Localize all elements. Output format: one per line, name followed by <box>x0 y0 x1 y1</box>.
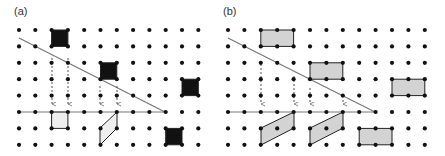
lattice-dot <box>196 44 200 48</box>
lattice-dot <box>98 77 102 81</box>
lattice-dot <box>324 44 328 48</box>
lattice-dot <box>308 77 312 81</box>
lattice-dot <box>292 110 296 114</box>
lattice-dot <box>50 61 54 65</box>
lattice-dot <box>50 28 54 32</box>
lattice-dot <box>180 61 184 65</box>
lattice-dot <box>147 28 151 32</box>
lattice-dot <box>147 94 151 98</box>
lattice-dot <box>33 28 37 32</box>
lattice-dot <box>423 61 427 65</box>
shaded-cell <box>392 79 425 95</box>
lattice-dot <box>115 77 119 81</box>
lattice-dot <box>406 110 410 114</box>
lattice-dot <box>374 44 378 48</box>
lattice-dot <box>115 28 119 32</box>
lattice-dot <box>131 28 135 32</box>
lattice-dot <box>66 77 70 81</box>
lattice-dot <box>164 94 168 98</box>
lattice-dot <box>341 94 345 98</box>
lattice-dot <box>341 77 345 81</box>
lattice-dot <box>406 143 410 147</box>
lattice-dot <box>115 110 119 114</box>
lattice-dot <box>50 143 54 147</box>
lattice-dot <box>324 94 328 98</box>
lattice-dot <box>180 126 184 130</box>
lattice-dot <box>98 110 102 114</box>
lattice-dot <box>82 110 86 114</box>
lattice-dot <box>324 110 328 114</box>
panel-a <box>17 28 201 147</box>
lattice-dot <box>164 28 168 32</box>
lattice-dot <box>242 77 246 81</box>
lattice-dot <box>33 94 37 98</box>
lattice-dot <box>50 77 54 81</box>
lattice-dot <box>196 28 200 32</box>
lattice-dot <box>164 126 168 130</box>
lattice-dot <box>180 110 184 114</box>
lattice-dot <box>275 61 279 65</box>
lattice-dot <box>98 44 102 48</box>
lattice-dot <box>226 44 230 48</box>
lattice-dot <box>308 110 312 114</box>
lattice-dot <box>226 94 230 98</box>
lattice-dot <box>406 44 410 48</box>
lattice-dot <box>17 61 21 65</box>
lattice-dot <box>406 94 410 98</box>
lattice-dot <box>275 110 279 114</box>
lattice-dot <box>17 44 21 48</box>
lattice-dot <box>259 143 263 147</box>
lattice-dot <box>390 61 394 65</box>
lattice-dot <box>82 143 86 147</box>
lattice-dot <box>115 143 119 147</box>
lattice-dot <box>242 44 246 48</box>
lattice-dot <box>164 44 168 48</box>
lattice-dot <box>180 143 184 147</box>
lattice-dot <box>33 77 37 81</box>
lattice-dot <box>147 77 151 81</box>
shaded-cell <box>52 112 68 128</box>
shaded-cell <box>261 30 294 46</box>
lattice-dot <box>82 28 86 32</box>
lattice-dot <box>374 61 378 65</box>
lattice-dot <box>390 44 394 48</box>
lattice-diagram <box>0 0 445 156</box>
lattice-dot <box>98 126 102 130</box>
lattice-dot <box>50 94 54 98</box>
lattice-dot <box>131 61 135 65</box>
lattice-dot <box>17 143 21 147</box>
lattice-dot <box>196 61 200 65</box>
lattice-dot <box>390 110 394 114</box>
lattice-dot <box>390 94 394 98</box>
lattice-dot <box>17 126 21 130</box>
lattice-dot <box>292 126 296 130</box>
lattice-dot <box>275 126 279 130</box>
lattice-dot <box>324 77 328 81</box>
lattice-dot <box>226 143 230 147</box>
lattice-dot <box>324 126 328 130</box>
lattice-dot <box>259 126 263 130</box>
lattice-dot <box>115 126 119 130</box>
lattice-dot <box>259 110 263 114</box>
lattice-dot <box>115 61 119 65</box>
lattice-dot <box>275 143 279 147</box>
lattice-dot <box>17 77 21 81</box>
lattice-dot <box>33 61 37 65</box>
lattice-dot <box>242 110 246 114</box>
lattice-dot <box>390 28 394 32</box>
lattice-dot <box>259 44 263 48</box>
lattice-dot <box>275 28 279 32</box>
black-cell <box>101 63 117 79</box>
lattice-dot <box>242 61 246 65</box>
lattice-dot <box>308 61 312 65</box>
lattice-dot <box>164 110 168 114</box>
lattice-dot <box>242 28 246 32</box>
lattice-dot <box>82 126 86 130</box>
lattice-dot <box>374 77 378 81</box>
lattice-dot <box>50 44 54 48</box>
lattice-dot <box>196 110 200 114</box>
lattice-dot <box>341 44 345 48</box>
lattice-dot <box>226 110 230 114</box>
lattice-dot <box>357 126 361 130</box>
lattice-dot <box>164 143 168 147</box>
